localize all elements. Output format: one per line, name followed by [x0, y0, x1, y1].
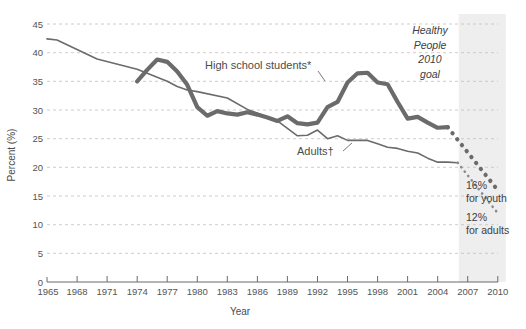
- x-axis: [47, 276, 498, 282]
- y-tick-30: 30: [32, 105, 43, 116]
- goal-label-line-4: goal: [420, 68, 441, 80]
- adults-goal-value: 12%: [466, 211, 487, 223]
- high-school-students-label: High school students*: [205, 59, 312, 71]
- x-tick-1968: 1968: [67, 286, 88, 297]
- healthy-people-goal-label: Healthy People 2010 goal: [412, 24, 448, 80]
- x-tick-1971: 1971: [97, 286, 118, 297]
- x-tick-2004: 2004: [427, 286, 448, 297]
- x-tick-1989: 1989: [277, 286, 298, 297]
- x-tick-2010: 2010: [487, 286, 508, 297]
- x-tick-1965: 1965: [37, 286, 58, 297]
- y-tick-10: 10: [32, 219, 43, 230]
- x-tick-1980: 1980: [187, 286, 208, 297]
- adults-leader-line: [343, 143, 352, 151]
- adults-label: Adults†: [297, 145, 334, 157]
- high-school-students-leader-line: [318, 71, 325, 81]
- youth-goal-value: 16%: [466, 179, 487, 191]
- x-tick-1977: 1977: [157, 286, 178, 297]
- x-tick-1974: 1974: [127, 286, 148, 297]
- x-axis-title: Year: [230, 306, 251, 317]
- x-axis-tick-labels: 1965 1968 1971 1974 1977 1980 1983 1986 …: [37, 286, 508, 297]
- x-tick-1995: 1995: [337, 286, 358, 297]
- y-tick-20: 20: [32, 162, 43, 173]
- y-tick-35: 35: [32, 76, 43, 87]
- y-tick-25: 25: [32, 133, 43, 144]
- y-tick-40: 40: [32, 47, 43, 58]
- x-tick-2001: 2001: [397, 286, 418, 297]
- y-axis-title: Percent (%): [6, 129, 17, 182]
- y-tick-5: 5: [38, 248, 43, 259]
- x-tick-1998: 1998: [367, 286, 388, 297]
- x-tick-1983: 1983: [217, 286, 238, 297]
- y-tick-45: 45: [32, 19, 43, 30]
- adults-goal-caption: for adults: [466, 224, 509, 236]
- youth-goal-caption: for youth: [466, 192, 507, 204]
- goal-label-line-1: Healthy: [412, 24, 448, 36]
- y-tick-15: 15: [32, 191, 43, 202]
- chart-figure: 45 40 35 30 25 20 15 10 5 0 Percent (%): [0, 0, 526, 329]
- goal-label-line-3: 2010: [417, 53, 442, 65]
- x-tick-2007: 2007: [457, 286, 478, 297]
- y-axis-tick-labels: 45 40 35 30 25 20 15 10 5 0: [32, 19, 43, 288]
- x-tick-1986: 1986: [247, 286, 268, 297]
- goal-label-line-2: People: [414, 39, 447, 51]
- x-tick-1992: 1992: [307, 286, 328, 297]
- healthy-people-goal-band: [459, 14, 506, 282]
- smoking-prevalence-line-chart: 45 40 35 30 25 20 15 10 5 0 Percent (%): [0, 0, 526, 329]
